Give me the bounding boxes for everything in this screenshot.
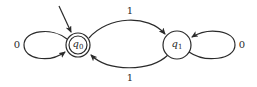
edge-q0-q1-label: 1 <box>127 6 133 16</box>
edge-q0-q0-label: 0 <box>14 40 20 50</box>
edge-q1-q0 <box>91 55 168 68</box>
edge-q0-q0 <box>24 32 67 59</box>
state-q0-label: q0 <box>73 39 84 51</box>
edge-q0-q1 <box>89 20 165 38</box>
edge-q1-q0-label: 1 <box>127 73 133 83</box>
state-q1-subscript: 1 <box>178 43 182 51</box>
edge-q1-q1 <box>189 31 235 58</box>
state-q1-label: q1 <box>172 39 183 51</box>
state-q0-subscript: 0 <box>79 43 83 51</box>
edge-q1-q1-label: 0 <box>239 40 245 50</box>
start-arrow <box>59 6 71 32</box>
